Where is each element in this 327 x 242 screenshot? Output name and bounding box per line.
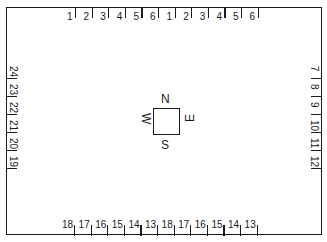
bottom-tick <box>223 225 224 236</box>
bottom-seat-label: 17 <box>79 220 90 230</box>
top-tick <box>175 7 176 18</box>
top-tick <box>158 7 159 18</box>
top-seat-label: 5 <box>133 12 139 22</box>
top-seat-label: 3 <box>100 12 106 22</box>
top-tick <box>191 7 192 18</box>
bottom-tick <box>174 225 175 236</box>
bottom-seat-label: 13 <box>145 220 156 230</box>
top-seat-label: 4 <box>216 12 222 22</box>
bottom-seat-label: 17 <box>178 220 189 230</box>
top-seat-label: 2 <box>183 12 189 22</box>
top-seat-label: 5 <box>233 12 239 22</box>
compass-east: E <box>184 114 196 122</box>
top-seat-label: 3 <box>200 12 206 22</box>
top-tick <box>92 7 93 18</box>
top-seat-label: 2 <box>84 12 90 22</box>
bottom-tick <box>74 225 75 236</box>
left-tick <box>6 78 17 79</box>
right-tick <box>311 150 322 151</box>
right-seat-label: 10 <box>309 120 319 131</box>
bottom-seat-label: 15 <box>112 220 123 230</box>
bottom-seat-label: 18 <box>162 220 173 230</box>
bottom-seat-label: 16 <box>195 220 206 230</box>
left-seat-label: 21 <box>8 120 18 131</box>
bottom-tick <box>107 225 108 236</box>
left-seat-label: 20 <box>8 138 18 149</box>
compass-north: N <box>161 93 170 105</box>
right-seat-label: 12 <box>309 156 319 167</box>
bottom-seat-label: 18 <box>62 220 73 230</box>
left-tick <box>6 96 17 97</box>
bottom-tick <box>157 225 158 236</box>
bottom-tick <box>207 225 208 236</box>
left-seat-label: 22 <box>8 102 18 113</box>
right-tick <box>311 132 322 133</box>
right-tick <box>311 114 322 115</box>
top-tick <box>258 7 259 18</box>
bottom-seat-label: 16 <box>95 220 106 230</box>
bottom-seat-label: 13 <box>245 220 256 230</box>
right-tick <box>311 168 322 169</box>
left-seat-label: 19 <box>8 156 18 167</box>
bottom-tick <box>257 225 258 236</box>
left-seat-label: 23 <box>8 84 18 95</box>
top-tick <box>125 7 126 18</box>
left-tick <box>6 150 17 151</box>
left-tick <box>6 114 17 115</box>
bottom-tick <box>124 225 125 236</box>
top-seat-label: 1 <box>67 12 73 22</box>
top-tick <box>75 7 76 18</box>
top-seat-label: 6 <box>250 12 256 22</box>
top-tick <box>208 7 209 18</box>
left-tick <box>6 168 17 169</box>
top-seat-label: 4 <box>117 12 123 22</box>
top-tick <box>141 7 142 18</box>
compass-south: S <box>161 139 169 151</box>
right-seat-label: 11 <box>309 138 319 148</box>
left-seat-label: 24 <box>8 66 18 77</box>
right-tick <box>311 78 322 79</box>
right-seat-label: 9 <box>309 102 319 108</box>
bottom-seat-label: 14 <box>228 220 239 230</box>
bottom-tick <box>190 225 191 236</box>
bottom-tick <box>240 225 241 236</box>
right-tick <box>311 96 322 97</box>
left-tick <box>6 132 17 133</box>
bottom-seat-label: 15 <box>211 220 222 230</box>
top-tick <box>224 7 225 18</box>
right-seat-label: 8 <box>309 84 319 90</box>
bottom-tick <box>91 225 92 236</box>
bottom-seat-label: 14 <box>128 220 139 230</box>
top-tick <box>241 7 242 18</box>
bottom-tick <box>140 225 141 236</box>
top-seat-label: 1 <box>167 12 173 22</box>
compass-square <box>153 108 180 135</box>
top-tick <box>108 7 109 18</box>
compass-west: W <box>140 113 152 124</box>
right-seat-label: 7 <box>309 66 319 72</box>
top-seat-label: 6 <box>150 12 156 22</box>
